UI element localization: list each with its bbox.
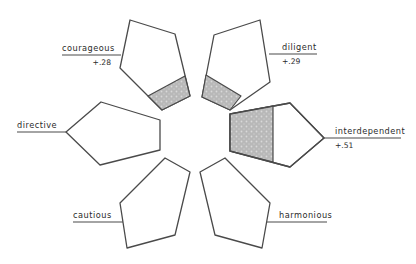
petal-cautious: cautious	[73, 158, 190, 248]
petal-label: directive	[17, 120, 57, 130]
petal-label: courageous	[62, 43, 115, 53]
petal-label: harmonious	[279, 210, 332, 220]
petal-label: diligent	[282, 42, 317, 52]
pentagon-shape	[200, 158, 270, 248]
petal-harmonious: harmonious	[200, 158, 332, 248]
petal-label: cautious	[73, 210, 112, 220]
petal-value: +.29	[282, 57, 301, 66]
petal-label: interdependent	[335, 126, 406, 136]
petal-directive: directive	[17, 102, 160, 165]
petal-value: +.51	[335, 141, 354, 150]
pentagon-shape	[66, 102, 160, 165]
petal-diligent: diligent +.29	[202, 20, 317, 110]
score-fill	[230, 106, 273, 162]
petal-courageous: courageous +.28	[62, 20, 190, 110]
petal-interdependent: interdependent +.51	[230, 103, 406, 167]
pentagon-shape	[120, 158, 190, 248]
flower-diagram: courageous +.28 diligent +.29 interdepen…	[0, 0, 416, 264]
petal-value: +.28	[93, 58, 112, 67]
